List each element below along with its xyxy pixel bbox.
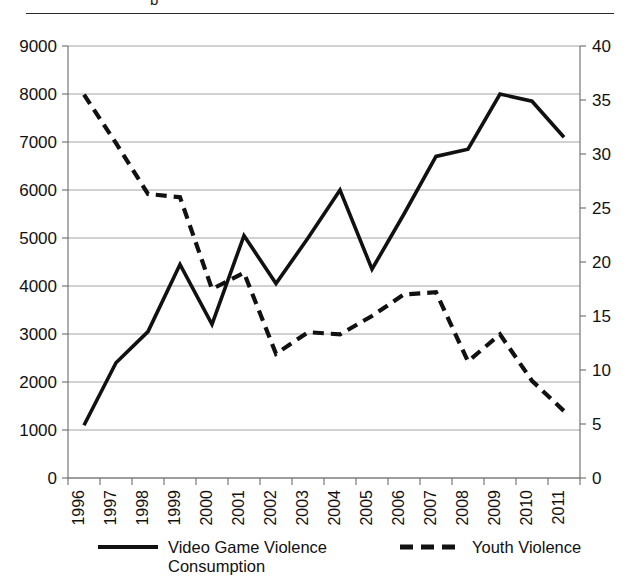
right-axis-tick-label: 35 xyxy=(592,91,611,110)
x-axis-tick-label: 2010 xyxy=(518,490,535,526)
x-axis-tick-label: 2002 xyxy=(262,490,279,526)
line-chart-canvas: 0100020003000400050006000700080009000051… xyxy=(0,0,638,579)
left-axis-tick-label: 7000 xyxy=(19,133,57,152)
x-axis-tick-label: 2009 xyxy=(486,490,503,526)
left-axis-tick-label: 1000 xyxy=(19,421,57,440)
right-axis-tick-label: 25 xyxy=(592,199,611,218)
left-axis-tick-label: 3000 xyxy=(19,325,57,344)
left-axis-tick-label: 8000 xyxy=(19,85,57,104)
x-axis-tick-label: 2001 xyxy=(230,490,247,526)
legend-label-1-line1: Video Game Violence xyxy=(168,538,327,556)
x-axis-tick-label: 2000 xyxy=(198,490,215,526)
series-line-1 xyxy=(84,94,564,425)
x-axis-tick-label: 2008 xyxy=(454,490,471,526)
left-axis-tick-label: 9000 xyxy=(19,37,57,56)
x-axis-tick-label: 2004 xyxy=(326,490,343,526)
x-axis-tick-label: 1997 xyxy=(102,490,119,526)
x-axis-tick-label: 1998 xyxy=(134,490,151,526)
legend-label-1-line2: Consumption xyxy=(168,557,265,575)
right-axis-tick-label: 10 xyxy=(592,361,611,380)
legend-label-2-line1: Youth Violence xyxy=(472,538,581,556)
right-axis-tick-label: 5 xyxy=(592,415,601,434)
x-axis-tick-label: 2011 xyxy=(550,490,567,525)
left-axis-tick-label: 5000 xyxy=(19,229,57,248)
right-axis-tick-label: 40 xyxy=(592,37,611,56)
left-axis-tick-label: 2000 xyxy=(19,373,57,392)
right-axis-tick-label: 0 xyxy=(592,469,601,488)
right-axis-tick-label: 15 xyxy=(592,307,611,326)
left-axis-tick-label: 0 xyxy=(48,469,57,488)
chart-figure: p 01000200030004000500060007000800090000… xyxy=(0,0,638,579)
right-axis-tick-label: 30 xyxy=(592,145,611,164)
left-axis-tick-label: 6000 xyxy=(19,181,57,200)
x-axis-tick-label: 1999 xyxy=(166,490,183,526)
right-axis-tick-label: 20 xyxy=(592,253,611,272)
x-axis-tick-label: 2005 xyxy=(358,490,375,526)
x-axis-tick-label: 2003 xyxy=(294,490,311,526)
x-axis-tick-label: 2007 xyxy=(422,490,439,526)
left-axis-tick-label: 4000 xyxy=(19,277,57,296)
x-axis-tick-label: 1996 xyxy=(70,490,87,526)
x-axis-tick-label: 2006 xyxy=(390,490,407,526)
